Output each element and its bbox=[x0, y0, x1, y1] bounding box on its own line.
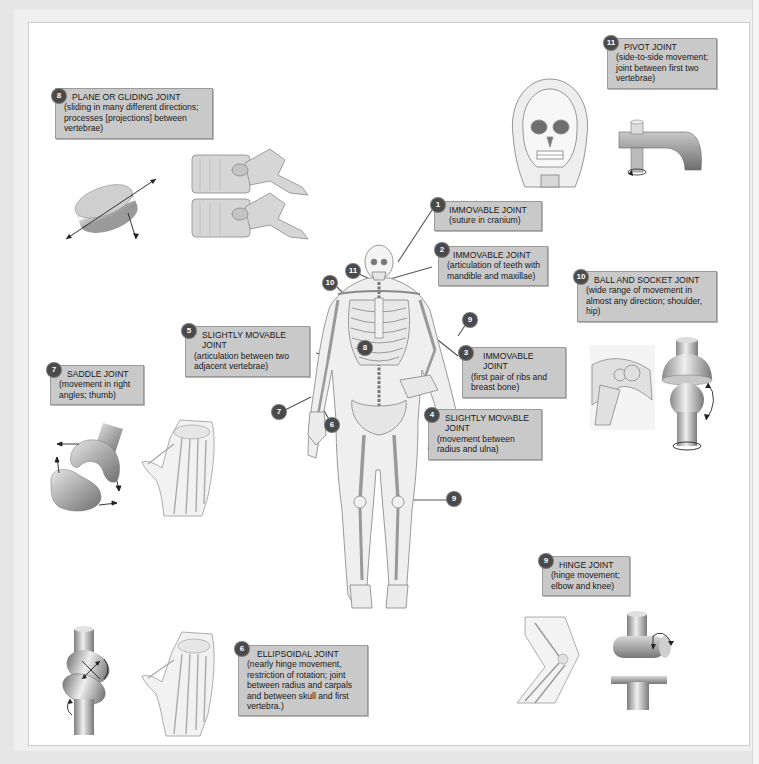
label-badge-1: 1 bbox=[431, 198, 445, 212]
label-description: (articulation between two adjacent verte… bbox=[194, 351, 304, 372]
label-title: SLIGHTLY MOVABLE JOINT bbox=[437, 413, 536, 434]
label-hinge-joint: 9 HINGE JOINT (hinge movement; elbow and… bbox=[542, 556, 630, 596]
label-badge-11: 11 bbox=[604, 36, 618, 50]
skull-front-view-illustration bbox=[505, 75, 595, 190]
label-slightly-movable-joint-4: 4 SLIGHTLY MOVABLE JOINT (movement betwe… bbox=[428, 409, 542, 460]
marker-badge-7: 7 bbox=[272, 405, 286, 419]
shoulder-bones-illustration bbox=[590, 345, 655, 430]
label-title: SLIGHTLY MOVABLE JOINT bbox=[194, 330, 304, 351]
label-saddle-joint: 7 SADDLE JOINT (movement in right angles… bbox=[50, 365, 144, 405]
hinge-joint-model-illustration bbox=[605, 610, 685, 710]
label-badge-10: 10 bbox=[574, 270, 588, 284]
marker-badge-10: 10 bbox=[323, 276, 337, 290]
label-description: (side-to-side movement; joint between fi… bbox=[616, 52, 711, 83]
label-immovable-joint-1: 1 IMMOVABLE JOINT (suture in cranium) bbox=[434, 201, 542, 231]
label-description: (first pair of ribs and breast bone) bbox=[471, 372, 560, 393]
label-badge-7: 7 bbox=[47, 363, 61, 377]
label-description: (articulation of teeth with mandible and… bbox=[447, 260, 542, 281]
label-badge-9: 9 bbox=[539, 554, 553, 568]
plane-joint-model-illustration bbox=[60, 165, 160, 245]
label-description: (movement between radius and ulna) bbox=[437, 434, 536, 455]
elbow-bones-illustration bbox=[515, 615, 585, 705]
marker-badge-11: 11 bbox=[346, 264, 360, 278]
hand-wrist-skeleton-illustration bbox=[140, 630, 220, 740]
label-title: ELLIPSOIDAL JOINT bbox=[247, 649, 362, 659]
label-immovable-joint-2: 2 IMMOVABLE JOINT (articulation of teeth… bbox=[438, 246, 548, 286]
vertebrae-side-view-illustration bbox=[190, 145, 315, 245]
label-slightly-movable-joint-5: 5 SLIGHTLY MOVABLE JOINT (articulation b… bbox=[185, 326, 310, 377]
hand-skeleton-illustration bbox=[140, 418, 220, 518]
label-ellipsoidal-joint: 6 ELLIPSOIDAL JOINT (nearly hinge moveme… bbox=[238, 645, 368, 716]
label-title: IMMOVABLE JOINT bbox=[471, 351, 560, 372]
label-badge-3: 3 bbox=[459, 346, 473, 360]
label-badge-4: 4 bbox=[425, 408, 439, 422]
ellipsoidal-joint-model-illustration bbox=[60, 625, 120, 740]
marker-badge-8: 8 bbox=[358, 341, 372, 355]
label-title: BALL AND SOCKET JOINT bbox=[586, 275, 711, 285]
ball-socket-model-illustration bbox=[658, 338, 718, 453]
marker-badge-9-elbow: 9 bbox=[463, 313, 477, 327]
pivot-joint-model-illustration bbox=[615, 120, 705, 190]
label-badge-6: 6 bbox=[235, 642, 249, 656]
label-description: (suture in cranium) bbox=[443, 215, 536, 225]
label-immovable-joint-3: 3 IMMOVABLE JOINT (first pair of ribs an… bbox=[462, 347, 566, 398]
label-badge-5: 5 bbox=[182, 324, 196, 338]
marker-badge-6: 6 bbox=[325, 418, 339, 432]
label-badge-2: 2 bbox=[435, 243, 449, 257]
label-description: (movement in right angles; thumb) bbox=[59, 379, 138, 400]
label-ball-and-socket-joint: 10 BALL AND SOCKET JOINT (wide range of … bbox=[577, 271, 717, 322]
saddle-joint-model-illustration bbox=[45, 415, 135, 515]
label-plane-gliding-joint: 8 PLANE OR GLIDING JOINT (sliding in man… bbox=[55, 88, 213, 139]
marker-badge-9-knee: 9 bbox=[447, 492, 461, 506]
label-title: IMMOVABLE JOINT bbox=[447, 250, 542, 260]
label-title: IMMOVABLE JOINT bbox=[443, 205, 536, 215]
label-description: (wide range of movement in almost any di… bbox=[586, 285, 711, 316]
label-badge-8: 8 bbox=[52, 89, 66, 103]
label-description: (nearly hinge movement, restriction of r… bbox=[247, 659, 362, 711]
label-description: (sliding in many different directions; p… bbox=[64, 102, 207, 133]
label-title: HINGE JOINT bbox=[551, 560, 624, 570]
label-title: PIVOT JOINT bbox=[616, 42, 711, 52]
label-title: PLANE OR GLIDING JOINT bbox=[64, 92, 207, 102]
label-description: (hinge movement; elbow and knee) bbox=[551, 570, 624, 591]
label-title: SADDLE JOINT bbox=[59, 369, 138, 379]
label-pivot-joint: 11 PIVOT JOINT (side-to-side movement; j… bbox=[607, 38, 717, 89]
